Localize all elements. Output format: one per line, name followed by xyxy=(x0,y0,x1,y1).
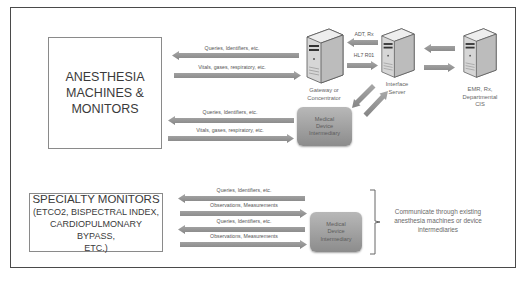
arrow-right-hl7 xyxy=(347,61,379,69)
specialty-title: SPECIALTY MONITORS xyxy=(32,192,159,206)
top-arrow-2-label: Vitals, gases, respiratory, etc. xyxy=(198,64,266,70)
arrow-left-queries-top xyxy=(172,51,300,59)
specialty-line-3: ETC.) xyxy=(84,242,108,254)
arrow-left-queries-bottom-2 xyxy=(178,225,306,233)
anesthesia-line-2: MACHINES & xyxy=(66,85,144,101)
bottom-arrow-2-label: Observations, Measurements xyxy=(210,202,278,208)
adt-rx-label: ADT, Rx xyxy=(354,31,373,37)
arrow-right-vitals-top xyxy=(174,71,302,79)
specialty-monitors-box: SPECIALTY MONITORS (ETCO2, BISPECTRAL IN… xyxy=(29,193,163,252)
emr-label: EMR, Rx, Departmental CIS xyxy=(463,86,498,109)
gateway-label: Gateway or Concentrator xyxy=(307,87,341,102)
arrow-right-interface-to-emr xyxy=(424,63,456,71)
bottom-arrow-1-label: Queries, Identifiers, etc. xyxy=(217,187,272,193)
interface-server-icon xyxy=(380,26,416,84)
anesthesia-machines-box: ANESTHESIA MACHINES & MONITORS xyxy=(48,37,162,149)
mid-arrow-2-label: Vitals, gases, respiratory, etc. xyxy=(196,127,264,133)
gateway-server-icon xyxy=(305,27,345,89)
specialty-line-1: (ETCO2, BISPECTRAL INDEX, xyxy=(33,206,159,218)
arrow-right-vitals-mid xyxy=(168,134,295,142)
arrow-right-observations-2 xyxy=(180,240,308,248)
arrow-right-observations-1 xyxy=(180,209,308,217)
anesthesia-line-3: MONITORS xyxy=(71,101,138,117)
medical-device-intermediary-top: Medical Device Intermediary xyxy=(297,107,352,146)
anesthesia-line-1: ANESTHESIA xyxy=(65,69,144,85)
specialty-line-2: CARDIOPULMONARY BYPASS, xyxy=(30,218,162,242)
arrow-left-queries-mid xyxy=(168,116,295,124)
mid-arrow-1-label: Queries, Identifiers, etc. xyxy=(203,109,258,115)
communication-note: Communicate through existing anesthesia … xyxy=(383,207,493,234)
bottom-arrow-4-label: Observations, Measurements xyxy=(210,233,278,239)
bottom-arrow-3-label: Queries, Identifiers, etc. xyxy=(217,218,272,224)
right-bracket xyxy=(369,189,383,259)
arrow-left-adt xyxy=(347,38,379,46)
arrow-left-emr-to-interface xyxy=(424,44,456,52)
medical-device-intermediary-bottom: Medical Device Intermediary xyxy=(310,212,362,252)
hl7-r01-label: HL7 R01 xyxy=(354,52,374,58)
emr-server-icon xyxy=(462,26,498,84)
arrow-diag-mdi-to-interface xyxy=(362,91,390,121)
arrow-left-queries-bottom-1 xyxy=(178,194,306,202)
